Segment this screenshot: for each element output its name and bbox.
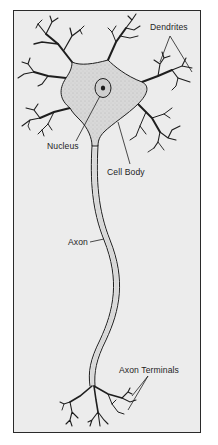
- cell-body: [61, 60, 147, 146]
- label-nucleus: Nucleus: [47, 142, 79, 151]
- label-axon: Axon: [68, 238, 88, 247]
- label-dendrites: Dendrites: [150, 23, 188, 32]
- label-cell-body: Cell Body: [107, 168, 145, 177]
- nucleolus: [101, 85, 105, 90]
- axon-terminals: [60, 386, 136, 426]
- cell-body-leader: [118, 122, 130, 164]
- axon-terminals-leader-1: [132, 376, 148, 396]
- neuron-illustration: [0, 0, 218, 445]
- label-axon-terminals: Axon Terminals: [119, 366, 179, 375]
- axon-leader: [90, 239, 104, 242]
